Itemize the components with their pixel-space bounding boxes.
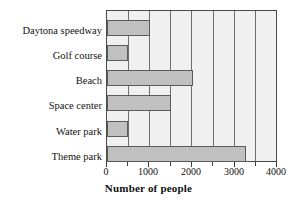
bar-daytona-speedway xyxy=(107,20,150,36)
gridline-1500 xyxy=(170,11,171,161)
category-label-beach: Beach xyxy=(0,75,102,86)
xtick-2500 xyxy=(212,162,213,166)
xtick-label-0: 0 xyxy=(86,166,126,178)
category-label-theme-park: Theme park xyxy=(0,151,102,162)
bar-space-center xyxy=(107,95,171,111)
category-label-space-center: Space center xyxy=(0,100,102,111)
bar-theme-park xyxy=(107,146,246,162)
xtick-label-3000: 3000 xyxy=(214,166,254,178)
gridline-3500 xyxy=(255,11,256,161)
plot-area xyxy=(106,10,277,162)
bar-water-park xyxy=(107,121,128,137)
bar-golf-course xyxy=(107,45,128,61)
bar-chart: Daytona speedway Golf course Beach Space… xyxy=(0,0,297,203)
category-label-daytona-speedway: Daytona speedway xyxy=(0,25,102,36)
xtick-label-4000: 4000 xyxy=(256,166,296,178)
gridline-2500 xyxy=(213,11,214,161)
bar-beach xyxy=(107,70,193,86)
category-axis-labels: Daytona speedway Golf course Beach Space… xyxy=(0,10,104,162)
x-axis-title: Number of people xyxy=(0,182,297,194)
gridline-3000 xyxy=(234,11,235,161)
xtick-label-2000: 2000 xyxy=(171,166,211,178)
gridline-2000 xyxy=(191,11,192,161)
category-label-water-park: Water park xyxy=(0,126,102,137)
category-label-golf-course: Golf course xyxy=(0,50,102,61)
xtick-label-1000: 1000 xyxy=(128,166,168,178)
